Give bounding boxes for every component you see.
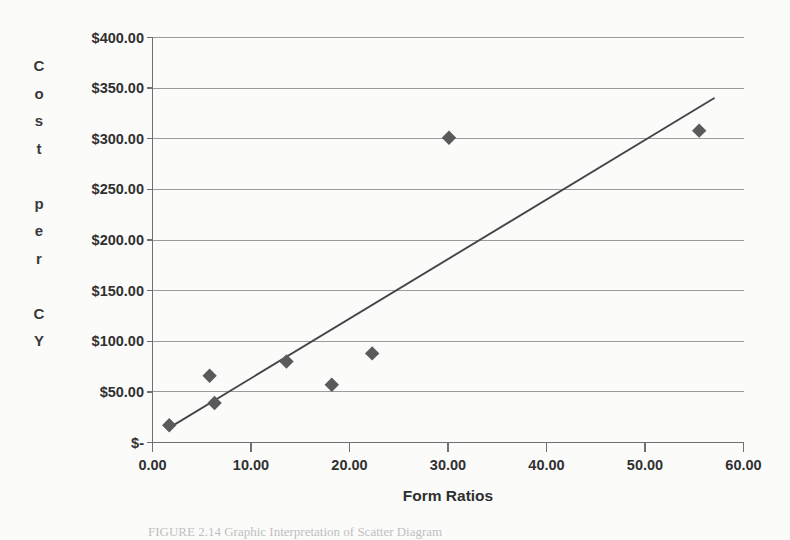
- data-point-marker: [442, 131, 456, 145]
- x-axis-title: Form Ratios: [152, 487, 744, 505]
- data-point-marker: [692, 123, 706, 137]
- data-point-marker: [365, 346, 379, 360]
- plot-area: [0, 0, 790, 540]
- data-point-marker: [325, 378, 339, 392]
- trendline: [168, 98, 714, 428]
- data-point-marker: [162, 418, 176, 432]
- data-point-marker: [279, 354, 293, 368]
- data-point-marker: [202, 368, 216, 382]
- figure-caption: FIGURE 2.14 Graphic Interpretation of Sc…: [148, 524, 748, 540]
- chart-figure: Cost per CY $-$50.00$100.00$150.00$200.0…: [0, 0, 790, 540]
